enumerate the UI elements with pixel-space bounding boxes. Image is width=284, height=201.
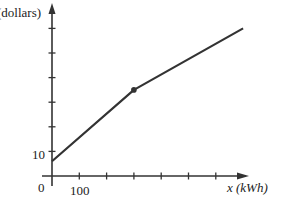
x-tick-label-100: 100 <box>70 184 90 197</box>
x-axis-label: x (kWh) <box>227 181 268 194</box>
y-tick-label-10: 10 <box>32 148 45 161</box>
axes <box>42 3 249 186</box>
origin-label: 0 <box>38 181 45 194</box>
data-markers <box>131 87 137 93</box>
data-line <box>52 28 243 161</box>
y-axis-label: (dollars) <box>0 6 41 19</box>
chart-canvas <box>0 0 284 201</box>
axis-ticks <box>49 28 216 179</box>
